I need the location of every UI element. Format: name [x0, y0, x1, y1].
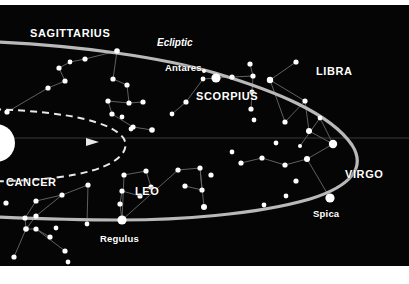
constellation-line	[185, 186, 202, 190]
star-chart-canvas	[0, 5, 409, 266]
star-point	[137, 193, 142, 198]
stars-group	[3, 48, 337, 264]
star-point	[47, 234, 52, 239]
star-point	[293, 178, 298, 183]
star-point	[282, 162, 287, 167]
constellation-line	[7, 88, 48, 112]
star-point	[23, 226, 29, 232]
star-point	[120, 115, 125, 120]
star-point	[259, 155, 264, 160]
star-point	[62, 78, 67, 83]
star-point	[208, 172, 213, 177]
star-point	[170, 112, 175, 117]
star-point	[284, 194, 289, 199]
star-point	[59, 192, 64, 197]
star-point	[85, 222, 90, 227]
star-point	[129, 127, 134, 132]
star-point	[140, 99, 145, 104]
constellation-line	[122, 191, 140, 196]
star-point	[238, 160, 243, 165]
star-point	[249, 89, 254, 94]
constellation-line	[172, 102, 186, 114]
star-point	[302, 98, 307, 103]
sky-background: SAGITTARIUSSCORPIUSLIBRAVIRGOLEOCANCERAn…	[0, 5, 409, 266]
earth-orbit-ellipse	[0, 109, 126, 181]
star-point	[114, 48, 120, 54]
star-point	[298, 144, 302, 148]
star-point	[45, 85, 50, 90]
star-point	[230, 150, 235, 155]
constellation-line	[124, 171, 146, 175]
star-point	[262, 203, 267, 208]
star-point	[318, 116, 323, 121]
star-point	[182, 183, 187, 188]
constellation-line	[113, 51, 117, 79]
star-point	[4, 109, 9, 114]
star-point	[33, 213, 38, 218]
star-point	[329, 140, 337, 148]
star-point	[202, 69, 206, 73]
star-point	[252, 118, 257, 123]
constellation-line	[307, 144, 333, 159]
star-point	[66, 260, 71, 265]
star-point	[229, 74, 234, 79]
star-point	[267, 77, 273, 83]
star-point	[143, 168, 148, 173]
constellation-line	[48, 81, 65, 88]
constellation-line	[285, 159, 307, 165]
star-point	[201, 204, 207, 210]
constellation-line	[270, 62, 296, 80]
constellation-line	[270, 80, 285, 122]
named-star-regulus	[117, 215, 126, 224]
star-point	[197, 165, 202, 170]
star-point	[175, 167, 180, 172]
star-point	[306, 128, 312, 134]
constellation-line	[14, 229, 26, 257]
constellation-line	[178, 168, 200, 170]
star-point	[110, 76, 115, 81]
named-star-antares	[211, 73, 220, 82]
constellation-line	[241, 158, 262, 163]
star-point	[3, 200, 8, 205]
constellation-line	[305, 101, 309, 131]
star-point	[22, 215, 27, 220]
star-point	[124, 82, 129, 87]
star-point	[62, 248, 67, 253]
star-point	[248, 106, 253, 111]
star-point	[121, 172, 126, 177]
constellation-line	[262, 158, 285, 165]
star-point	[105, 98, 110, 103]
star-point	[250, 73, 255, 78]
star-point	[126, 100, 131, 105]
star-point	[33, 226, 38, 231]
star-point	[201, 77, 206, 82]
constellation-line	[36, 229, 65, 251]
orbit-direction-arrow	[86, 138, 99, 146]
star-point	[149, 127, 155, 133]
named-star-spica	[325, 193, 334, 202]
star-point	[11, 254, 16, 259]
constellation-line	[108, 101, 129, 103]
star-point	[109, 111, 114, 116]
constellation-line	[62, 185, 88, 195]
constellation-line	[133, 127, 152, 130]
sun-disc	[0, 124, 15, 162]
constellation-line	[186, 79, 203, 102]
star-point	[282, 119, 287, 124]
star-point	[56, 65, 61, 70]
star-point	[119, 188, 124, 193]
star-point	[183, 99, 188, 104]
star-point	[33, 198, 38, 203]
constellation-line	[127, 85, 129, 103]
star-point	[304, 156, 310, 162]
star-point	[247, 61, 252, 66]
star-chart-figure: SAGITTARIUSSCORPIUSLIBRAVIRGOLEOCANCERAn…	[0, 0, 409, 284]
star-point	[148, 184, 153, 189]
constellation-line	[122, 175, 124, 220]
star-point	[68, 60, 73, 65]
star-point	[274, 141, 279, 146]
ecliptic-line	[0, 42, 357, 220]
constellation-line	[122, 170, 178, 220]
constellation-line	[232, 76, 253, 77]
star-point	[82, 56, 87, 61]
